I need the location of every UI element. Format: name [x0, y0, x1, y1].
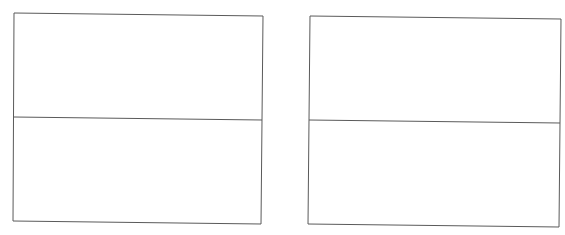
right-box	[308, 16, 561, 227]
left-box-divider	[14, 117, 262, 120]
left-box	[13, 13, 263, 224]
right-box-divider	[309, 120, 560, 123]
diagram-canvas	[0, 0, 565, 235]
